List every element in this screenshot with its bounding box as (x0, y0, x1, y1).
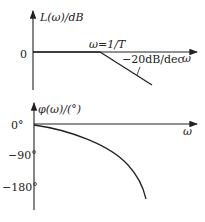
phase-tick-minus-180: −180° (2, 181, 38, 194)
magnitude-x-axis-label: ω (182, 52, 191, 65)
break-frequency-label: ω=1/T (89, 38, 127, 51)
slope-leader-line (137, 67, 140, 75)
phase-curve (34, 125, 146, 199)
slope-label: −20dB/dec (122, 53, 184, 66)
phase-x-axis-label: ω (183, 125, 192, 138)
phase-plot: φ(ω)/(°) 0° −90° −180° ω (2, 103, 197, 210)
magnitude-y-axis-label: L(ω)/dB (39, 11, 84, 24)
bode-diagram: L(ω)/dB 0 ω=1/T −20dB/dec ω φ(ω)/(°) 0° … (0, 0, 205, 222)
magnitude-plot: L(ω)/dB 0 ω=1/T −20dB/dec ω (20, 11, 197, 90)
magnitude-zero-tick: 0 (20, 48, 27, 61)
phase-tick-0: 0° (11, 119, 24, 132)
phase-tick-minus-90: −90° (8, 149, 37, 162)
phase-y-axis-label: φ(ω)/(°) (38, 103, 81, 116)
